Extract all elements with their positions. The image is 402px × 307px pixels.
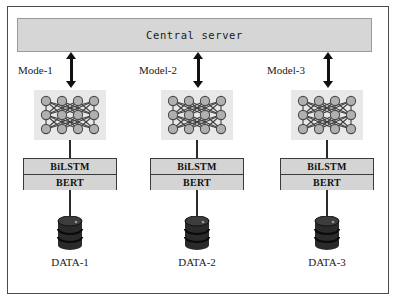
- data-label-2: DATA-2: [137, 256, 257, 268]
- arrow-head-down-icon: [193, 81, 203, 88]
- connector-model-to-data-3: [326, 190, 328, 216]
- neural-network-icon: [161, 90, 233, 140]
- bert-label-2: BERT: [151, 175, 243, 190]
- bert-label-3: BERT: [281, 175, 373, 190]
- arrow-shaft: [197, 57, 200, 83]
- central-server-node: Central server: [17, 18, 372, 52]
- central-server-label: Central server: [146, 29, 243, 41]
- database-icon-2: [184, 216, 210, 250]
- connector-model-to-data-1: [69, 190, 71, 216]
- client-column-3: Model-3: [267, 52, 387, 288]
- connector-nn-to-model-3: [326, 140, 328, 158]
- model-label-3: Model-3: [267, 64, 305, 76]
- model-stack-1: BiLSTM BERT: [23, 158, 117, 190]
- server-model-arrow-3: [323, 52, 335, 88]
- model-stack-2: BiLSTM BERT: [150, 158, 244, 190]
- database-icon-3: [314, 216, 340, 250]
- diagram-canvas: Central server Mode-1: [0, 0, 402, 307]
- arrow-head-down-icon: [323, 81, 333, 88]
- data-label-3: DATA-3: [267, 256, 387, 268]
- client-column-1: Mode-1: [10, 52, 130, 288]
- model-label-2: Model-2: [139, 64, 177, 76]
- connector-model-to-data-2: [196, 190, 198, 216]
- model-stack-3: BiLSTM BERT: [280, 158, 374, 190]
- arrow-shaft: [327, 57, 330, 83]
- server-model-arrow-2: [193, 52, 205, 88]
- bilstm-label-1: BiLSTM: [24, 159, 116, 175]
- neural-network-icon: [34, 90, 106, 140]
- bert-label-1: BERT: [24, 175, 116, 190]
- server-model-arrow-1: [66, 52, 78, 88]
- data-label-1: DATA-1: [10, 256, 130, 268]
- bilstm-label-2: BiLSTM: [151, 159, 243, 175]
- neural-network-icon: [291, 90, 363, 140]
- model-label-1: Mode-1: [18, 64, 53, 76]
- arrow-shaft: [70, 57, 73, 83]
- neural-network-block-3: [291, 90, 363, 140]
- client-column-2: Model-2: [137, 52, 257, 288]
- neural-network-block-1: [34, 90, 106, 140]
- arrow-head-down-icon: [66, 81, 76, 88]
- neural-network-block-2: [161, 90, 233, 140]
- database-icon-1: [57, 216, 83, 250]
- connector-nn-to-model-1: [69, 140, 71, 158]
- connector-nn-to-model-2: [196, 140, 198, 158]
- bilstm-label-3: BiLSTM: [281, 159, 373, 175]
